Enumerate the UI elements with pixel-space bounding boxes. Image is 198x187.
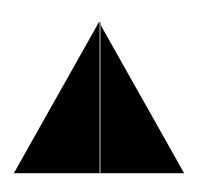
triangle-figure (0, 0, 198, 187)
figure-canvas (0, 0, 198, 187)
